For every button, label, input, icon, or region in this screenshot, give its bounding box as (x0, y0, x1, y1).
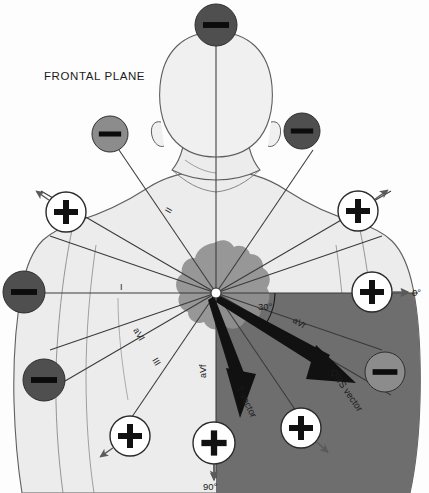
pole-upper-right-positive[interactable] (338, 190, 387, 231)
label-lead-I: I (120, 282, 123, 292)
pole-upper-left-positive-arrow (37, 191, 49, 200)
pole-superior-negative[interactable] (195, 4, 237, 46)
pole-left-lateral-negative-minus-glyph (11, 289, 37, 295)
label-zero-degree: 0° (412, 287, 421, 298)
pole-upper-left-positive-plus-glyph-v (63, 200, 69, 224)
ear-left (151, 122, 164, 147)
label-angle-30deg: 30° (258, 301, 273, 312)
pole-lower-right-negative[interactable] (365, 352, 405, 392)
pole-upper-left-negative-minus-glyph (99, 131, 121, 136)
pole-lower-right-negative-minus-glyph (373, 369, 398, 375)
pole-upper-left-negative[interactable] (92, 116, 128, 152)
label-ninety-degree: 90° (203, 481, 218, 492)
pole-upper-right-negative[interactable] (284, 113, 320, 149)
label-lead-aVF: aVf (198, 364, 208, 378)
page-title: FRONTAL PLANE (44, 70, 145, 82)
pole-right-lateral-positive-plus-glyph-v (369, 280, 375, 304)
origin-point (211, 288, 221, 298)
pole-lower-right-positive-plus-glyph-v (298, 416, 304, 440)
pole-superior-negative-minus-glyph (203, 22, 229, 28)
pole-inferior-positive-plus-glyph-v (211, 430, 217, 455)
pole-lower-left-positive-plus-glyph-v (127, 424, 133, 448)
pole-upper-right-positive-plus-glyph-v (355, 199, 361, 223)
pole-lower-left-negative-minus-glyph (31, 377, 57, 383)
frontal-plane-figure: IIIIIIaVlaVraVfQRS vectorT vector30°0°90… (0, 0, 429, 493)
pole-left-lateral-negative[interactable] (3, 271, 45, 313)
pole-lower-left-negative[interactable] (23, 359, 65, 401)
pole-upper-right-negative-minus-glyph (291, 128, 313, 133)
pole-upper-left-positive[interactable] (37, 191, 86, 232)
ear-right (268, 122, 281, 147)
